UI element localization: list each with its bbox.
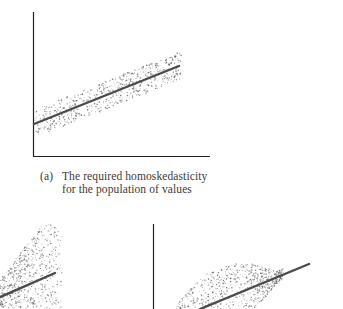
panel-c-scatter-points: [176, 263, 283, 309]
panel-b-scatter-points: [0, 224, 63, 309]
panel-a-label: (a): [40, 170, 62, 183]
panel-c-plot: [154, 224, 310, 309]
panel-c-regression-line: [200, 264, 309, 309]
caption-line-1: The required homoskedasticity: [62, 170, 207, 183]
panel-b-plot: [0, 224, 63, 309]
panel-a-plot: [33, 12, 210, 157]
panel-a-regression-line: [34, 66, 179, 124]
figure: [0, 0, 343, 309]
caption-line-2: for the population of values: [62, 183, 192, 196]
panel-a-caption: (a) The required homoskedasticity for th…: [40, 170, 207, 195]
